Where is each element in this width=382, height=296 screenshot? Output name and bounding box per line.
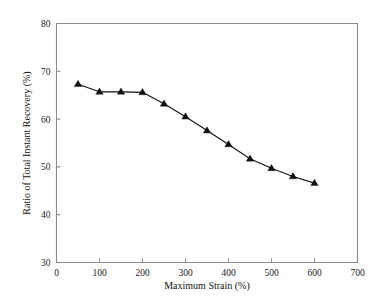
- y-tick-label: 40: [41, 210, 51, 220]
- x-tick-label: 500: [264, 268, 279, 278]
- figure-background: [0, 0, 382, 296]
- y-tick-label: 50: [41, 162, 51, 172]
- x-tick-label: 700: [350, 268, 365, 278]
- y-tick-label: 80: [41, 19, 51, 29]
- x-axis-title: Maximum Strain (%): [164, 280, 250, 292]
- x-tick-label: 300: [178, 268, 193, 278]
- chart-figure: 304050607080 0100200300400500600700 Maxi…: [0, 0, 382, 296]
- x-tick-label: 0: [54, 268, 59, 278]
- y-tick-label: 30: [41, 258, 51, 268]
- y-axis-title: Ratio of Total Instant Recovery (%): [21, 71, 33, 214]
- x-tick-label: 400: [221, 268, 236, 278]
- x-tick-label: 600: [307, 268, 322, 278]
- x-tick-label: 100: [92, 268, 107, 278]
- y-tick-label: 60: [41, 115, 51, 125]
- x-tick-label: 200: [135, 268, 150, 278]
- chart-canvas: 304050607080 0100200300400500600700 Maxi…: [0, 0, 382, 296]
- y-tick-label: 70: [41, 67, 51, 77]
